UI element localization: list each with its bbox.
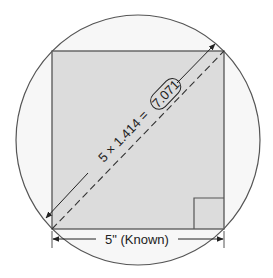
side-label: 5" (Known)	[105, 232, 169, 247]
diagram-canvas: 5 × 1.414 = 7.071 5" (Known)	[0, 0, 273, 278]
